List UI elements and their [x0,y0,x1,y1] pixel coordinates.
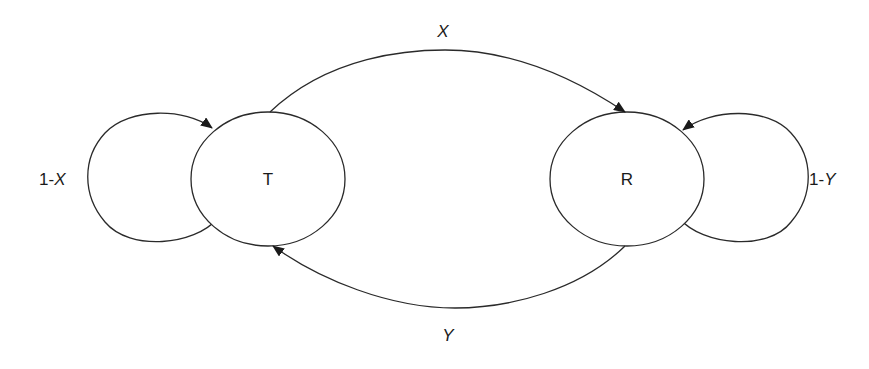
node-t-label: T [263,170,273,189]
left-loop-label-var: X [53,170,66,189]
right-loop-label-var: Y [824,170,837,189]
state-diagram: T R X Y 1-X 1-Y [0,0,869,369]
left-loop-label: 1-X [39,170,66,189]
right-loop-label: 1-Y [809,170,837,189]
node-r-label: R [621,170,633,189]
edge-t-to-r [270,50,625,112]
edge-r-to-t [273,246,625,308]
edge-top-label: X [436,22,449,41]
edge-bottom-label: Y [442,326,455,345]
left-loop-label-prefix: 1- [39,170,54,189]
right-loop-label-prefix: 1- [809,170,824,189]
